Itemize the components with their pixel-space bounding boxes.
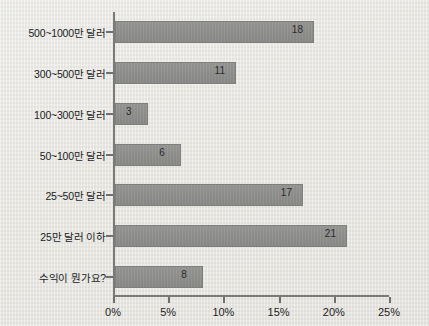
category-label: 50~100만 달러 (40, 148, 106, 163)
x-axis-label: 5% (160, 306, 176, 318)
category-label: 100~300만 달러 (34, 107, 106, 122)
bar-row: 3 (115, 103, 391, 125)
x-axis-tick (113, 297, 115, 303)
bar (115, 266, 203, 288)
bar-row: 11 (115, 62, 391, 84)
bar-value-label: 11 (214, 65, 225, 76)
x-axis-tick (168, 297, 170, 303)
bar-value-label: 17 (281, 187, 293, 198)
bar-row: 6 (115, 144, 391, 166)
x-axis-label: 25% (378, 306, 400, 318)
category-label: 25~50만 달러 (45, 188, 106, 203)
bar-row: 8 (115, 266, 391, 288)
bar-chart: 500~1000만 달러300~500만 달러100~300만 달러50~100… (0, 0, 429, 326)
bar (115, 225, 347, 247)
bar-value-label: 8 (181, 269, 187, 280)
y-axis-tick (106, 113, 113, 115)
plot-area: 18113617218 0%5%10%15%20%25% (113, 12, 389, 297)
category-label: 500~1000만 달러 (28, 25, 106, 40)
category-label: 수익이 뭔가요? (39, 270, 106, 285)
x-axis-label: 0% (105, 306, 121, 318)
x-axis-tick (389, 297, 391, 303)
x-axis-line (113, 295, 389, 297)
y-axis-tick (106, 235, 113, 237)
y-axis-tick (106, 72, 113, 74)
bar (115, 144, 181, 166)
x-axis-label: 10% (212, 306, 234, 318)
bar-value-label: 6 (159, 147, 165, 158)
bar-value-label: 18 (292, 24, 304, 35)
y-axis-tick (106, 31, 113, 33)
x-axis-tick (334, 297, 336, 303)
bar-row: 17 (115, 184, 391, 206)
x-axis-label: 20% (323, 306, 345, 318)
y-axis-tick (106, 276, 113, 278)
y-axis-tick (106, 154, 113, 156)
x-axis-label: 15% (268, 306, 290, 318)
category-label: 25만 달러 이하 (40, 229, 106, 244)
bar-row: 21 (115, 225, 391, 247)
x-axis-tick (223, 297, 225, 303)
y-axis-labels: 500~1000만 달러300~500만 달러100~300만 달러50~100… (0, 12, 106, 297)
bar (115, 21, 314, 43)
x-axis-tick (279, 297, 281, 303)
bar-value-label: 3 (126, 106, 132, 117)
category-label: 300~500만 달러 (34, 66, 106, 81)
bar-row: 18 (115, 21, 391, 43)
bar (115, 184, 303, 206)
y-axis-tick (106, 194, 113, 196)
bar-value-label: 21 (325, 228, 337, 239)
